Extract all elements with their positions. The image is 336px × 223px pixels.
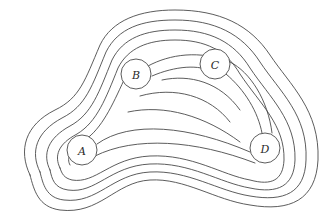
contour-line [226, 74, 262, 133]
contour-line [95, 143, 255, 163]
contour-line [162, 78, 240, 110]
marker-label-c: C [211, 59, 220, 72]
marker-label-a: A [77, 145, 86, 158]
contour-line [97, 129, 250, 152]
marker-a: A [67, 135, 97, 165]
contour-line [140, 92, 230, 122]
marker-label-b: B [131, 69, 140, 82]
contour-line [47, 30, 295, 190]
contour-diagram: A B C D [0, 0, 336, 223]
marker-d: D [250, 133, 280, 163]
contour-line [35, 20, 306, 200]
marker-c: C [200, 49, 230, 79]
outer-contours [24, 10, 318, 211]
marker-b: B [121, 59, 151, 89]
marker-label-d: D [260, 143, 270, 156]
